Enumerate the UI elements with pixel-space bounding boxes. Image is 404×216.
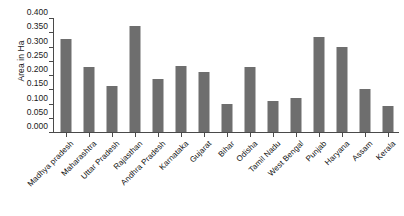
x-axis-tick-mark xyxy=(342,133,343,137)
y-axis-tick-mark xyxy=(49,118,53,119)
x-axis-category-labels: Madhya pradeshMaharashtraUttar PradeshRa… xyxy=(0,0,404,216)
x-axis-tick-label: Gujarat xyxy=(187,139,212,164)
x-axis-tick-mark xyxy=(273,133,274,137)
x-axis-tick-mark xyxy=(181,133,182,137)
y-axis-tick-mark xyxy=(49,47,53,48)
bar-chart-figure: Area in Ha 0.0000.0500.1000.1500.2000.25… xyxy=(0,0,404,216)
x-axis-tick-mark xyxy=(319,133,320,137)
x-axis-tick-mark xyxy=(66,133,67,137)
x-axis-tick-mark xyxy=(250,133,251,137)
x-axis-tick-mark xyxy=(112,133,113,137)
x-axis-tick-mark xyxy=(204,133,205,137)
x-axis-tick-mark xyxy=(158,133,159,137)
y-axis-tick-mark xyxy=(49,32,53,33)
x-axis-tick-mark xyxy=(89,133,90,137)
y-axis-tick-mark xyxy=(49,75,53,76)
x-axis-tick-label: Assam xyxy=(350,139,374,163)
x-axis-tick-mark xyxy=(135,133,136,137)
y-axis-tick-mark xyxy=(49,104,53,105)
y-axis-tick-mark xyxy=(49,89,53,90)
x-axis-tick-label: Kerala xyxy=(374,139,397,162)
x-axis-tick-mark xyxy=(365,133,366,137)
y-axis-tick-mark xyxy=(49,61,53,62)
y-axis-tick-mark xyxy=(49,132,53,133)
x-axis-tick-mark xyxy=(227,133,228,137)
y-axis-tick-mark xyxy=(49,18,53,19)
x-axis-tick-label: Bihar xyxy=(216,139,236,159)
x-axis-tick-mark xyxy=(296,133,297,137)
x-axis-tick-mark xyxy=(388,133,389,137)
